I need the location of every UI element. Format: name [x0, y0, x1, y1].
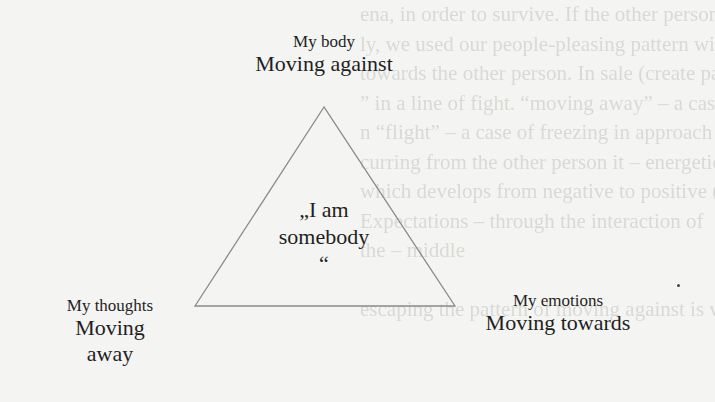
vertex-top-movement: Moving against	[224, 51, 424, 77]
center-line-2: somebody	[249, 223, 399, 250]
vertex-left-movement-2: away	[40, 341, 180, 367]
triangle-center-text: „I am somebody “	[249, 196, 399, 277]
vertex-left-label: My thoughts	[40, 296, 180, 315]
vertex-top: My body Moving against	[224, 32, 424, 77]
center-line-3: “	[249, 250, 399, 277]
vertex-right-movement: Moving towards	[458, 310, 658, 336]
center-line-1: „I am	[249, 196, 399, 223]
vertex-left-movement-1: Moving	[40, 315, 180, 341]
stray-dot	[677, 284, 680, 287]
vertex-top-label: My body	[224, 32, 424, 51]
vertex-right-label: My emotions	[458, 291, 658, 310]
vertex-bottom-right: My emotions Moving towards	[458, 291, 658, 336]
vertex-bottom-left: My thoughts Moving away	[40, 296, 180, 367]
